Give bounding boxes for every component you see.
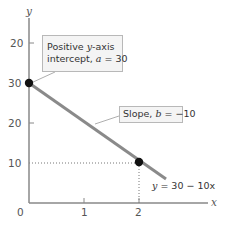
intercept-callout-leader [31,72,55,83]
intercept-callout-line1: Positive y-axis [47,41,119,53]
y-tick-label-10: 10 [8,157,21,169]
intercept-callout-line2: intercept, a = 30 [47,53,119,65]
linear-function-line [29,83,166,179]
slope-callout: Slope, b = −10 [119,106,183,123]
x-tick-label-2: 2 [135,206,142,218]
y-tick-label-30: 30 [8,77,21,89]
y-tick-label-top: 20 [10,37,23,49]
intercept-point [25,79,33,87]
point-x2-y10 [135,158,143,166]
origin-label: 0 [17,206,24,218]
slope-callout-leader [95,116,119,124]
x-axis-label: x [211,196,217,208]
y-tick-label-20: 20 [8,117,21,129]
y-axis-label: y [25,5,33,17]
x-tick-label-1: 1 [81,206,88,218]
equation-label: y = 30 − 10x [152,180,215,191]
intercept-callout: Positive y-axis intercept, a = 30 [42,35,123,72]
